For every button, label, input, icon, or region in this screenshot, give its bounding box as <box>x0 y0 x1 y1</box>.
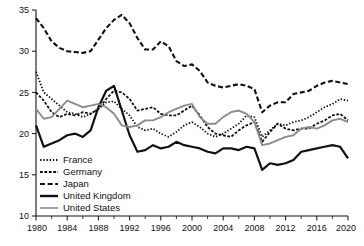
y-tick-label-30: 30 <box>19 46 29 56</box>
y-tick-label-15: 15 <box>19 170 29 180</box>
x-tick-label-1996: 1996 <box>151 223 171 233</box>
legend-label-germany: Germany <box>63 166 102 177</box>
x-tick-label-2020: 2020 <box>336 223 356 233</box>
legend-label-japan: Japan <box>63 178 89 189</box>
legend-label-united-states: United States <box>63 202 120 213</box>
series-japan <box>36 15 348 112</box>
line-chart: 101520253035 198019841988199219962000200… <box>0 0 364 246</box>
x-tick-label-1980: 1980 <box>27 223 47 233</box>
chart-legend: FranceGermanyJapanUnited KingdomUnited S… <box>40 154 131 213</box>
y-tick-label-10: 10 <box>19 211 29 221</box>
y-tick-label-25: 25 <box>19 88 29 98</box>
x-tick-label-1988: 1988 <box>88 223 108 233</box>
chart-container: 101520253035 198019841988199219962000200… <box>0 0 364 246</box>
x-tick-label-2008: 2008 <box>244 223 264 233</box>
x-axis-ticks <box>36 216 348 221</box>
y-axis-ticks <box>32 10 36 216</box>
y-axis-tick-labels: 101520253035 <box>19 5 29 221</box>
x-tick-label-2016: 2016 <box>307 223 327 233</box>
legend-label-united-kingdom: United Kingdom <box>63 190 131 201</box>
legend-label-france: France <box>63 154 93 165</box>
series-layer <box>36 15 348 170</box>
x-tick-label-1992: 1992 <box>120 223 140 233</box>
x-tick-label-1984: 1984 <box>57 223 77 233</box>
x-tick-label-2004: 2004 <box>213 223 233 233</box>
series-germany <box>36 91 348 142</box>
x-axis-tick-labels: 1980198419881992199620002004200820122016… <box>27 223 356 233</box>
y-tick-label-20: 20 <box>19 129 29 139</box>
x-tick-label-2000: 2000 <box>182 223 202 233</box>
y-tick-label-35: 35 <box>19 5 29 15</box>
x-tick-label-2012: 2012 <box>276 223 296 233</box>
